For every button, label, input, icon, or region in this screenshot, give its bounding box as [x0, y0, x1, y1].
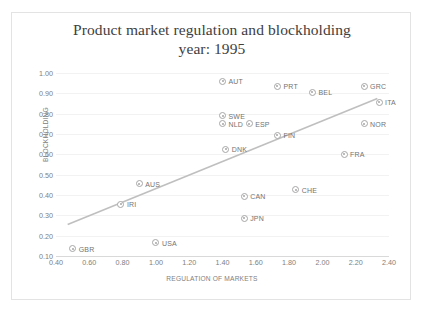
chart-title: Product market regulation and blockholdi… [12, 20, 412, 58]
x-tick-label: 1.20 [182, 258, 196, 267]
data-point-marker[interactable] [361, 83, 368, 90]
data-point-label: USA [162, 239, 177, 246]
chart-title-line2: year: 1995 [12, 39, 412, 58]
x-tick-label: 0.40 [49, 258, 63, 267]
data-point-label: BEL [318, 89, 332, 96]
x-tick-label: 0.60 [82, 258, 96, 267]
y-tick-label: 0.40 [39, 191, 53, 200]
x-tick-label: 0.80 [116, 258, 130, 267]
data-point-marker[interactable] [361, 120, 368, 127]
plot-area: AUTPRTBELGRCITASWENLDESPNORFINDNKFRAAUSC… [56, 73, 389, 256]
data-point-label: GBR [79, 245, 95, 252]
data-point-label: GRC [370, 83, 386, 90]
data-point-marker[interactable] [241, 193, 248, 200]
trendline [56, 73, 389, 256]
y-axis-ticks: 0.100.200.300.400.500.600.700.800.901.00 [26, 73, 53, 256]
x-tick-label: 1.80 [282, 258, 296, 267]
chart-title-line1: Product market regulation and blockholdi… [12, 20, 412, 39]
y-tick-label: 1.00 [39, 69, 53, 78]
x-tick-label: 2.40 [382, 258, 396, 267]
data-point-label: PRT [283, 83, 297, 90]
y-tick-label: 0.70 [39, 130, 53, 139]
data-point-label: DNK [232, 146, 247, 153]
data-point-label: AUT [229, 78, 244, 85]
data-point-label: JPN [250, 215, 264, 222]
y-tick-label: 0.80 [39, 109, 53, 118]
y-tick-label: 0.30 [39, 211, 53, 220]
y-tick-label: 0.50 [39, 170, 53, 179]
x-tick-label: 2.20 [349, 258, 363, 267]
data-point-label: SWE [229, 112, 246, 119]
data-point-label: FIN [283, 132, 295, 139]
data-point-marker[interactable] [341, 151, 348, 158]
data-point-label: NOR [370, 120, 386, 127]
data-point-label: CHE [302, 186, 317, 193]
data-point-label: IRI [127, 201, 137, 208]
data-point-label: ESP [255, 120, 270, 127]
y-tick-label: 0.20 [39, 231, 53, 240]
x-axis-title: REGULATION OF MARKETS [12, 275, 412, 282]
x-axis-ticks: 0.400.600.801.001.201.401.601.802.002.20… [56, 258, 389, 270]
data-point-marker[interactable] [309, 89, 316, 96]
x-tick-label: 2.00 [315, 258, 329, 267]
x-tick-label: 1.60 [249, 258, 263, 267]
data-point-label: FRA [350, 151, 365, 158]
y-tick-label: 0.60 [39, 150, 53, 159]
data-point-label: NLD [229, 120, 244, 127]
x-tick-label: 1.40 [216, 258, 230, 267]
data-point-label: ITA [385, 99, 396, 106]
data-point-label: CAN [250, 193, 265, 200]
chart-container: Product market regulation and blockholdi… [11, 12, 411, 300]
data-point-marker[interactable] [274, 83, 281, 90]
data-point-marker[interactable] [246, 120, 253, 127]
data-point-marker[interactable] [376, 99, 383, 106]
data-point-label: AUS [145, 180, 160, 187]
gridline-horizontal [56, 256, 389, 257]
y-tick-label: 0.90 [39, 89, 53, 98]
x-tick-label: 1.00 [149, 258, 163, 267]
data-point-marker[interactable] [219, 78, 226, 85]
data-point-marker[interactable] [274, 132, 281, 139]
data-point-marker[interactable] [241, 215, 248, 222]
